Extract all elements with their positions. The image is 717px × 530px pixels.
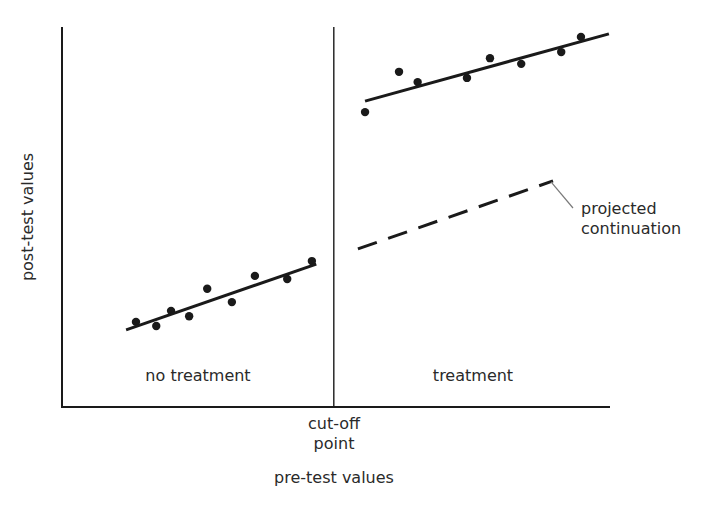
regression-discontinuity-chart [0,0,717,530]
data-point [361,108,369,116]
region-label-treatment: treatment [433,366,513,386]
data-point [152,322,160,330]
no-treatment-fit-line [126,264,316,330]
data-point [486,54,494,62]
data-point [517,60,525,68]
region-label-no-treatment: no treatment [145,366,250,386]
data-point [228,298,236,306]
y-axis-label: post-test values [18,153,37,281]
data-point [203,285,211,293]
axes [61,27,610,407]
treatment-fit-line [365,34,609,101]
cutoff-label-line2: point [314,434,355,454]
data-point [395,68,403,76]
x-axis-label: pre-test values [274,468,394,488]
projected-continuation [358,181,553,249]
data-point [251,272,259,280]
series-layer [126,33,609,331]
annotation-label-line2: continuation [581,219,681,239]
cutoff-label-line1: cut-off [308,414,360,434]
treatment-points [361,33,585,117]
annotation-label-line1: projected [581,199,657,219]
data-point [185,312,193,320]
annotation-leader-line [551,182,573,208]
